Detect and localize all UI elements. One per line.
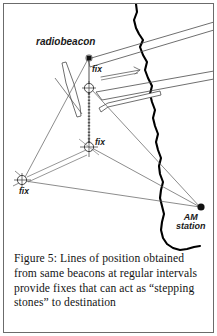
radiobeacon-marker xyxy=(86,55,93,62)
island-outline xyxy=(55,62,82,117)
arrow-marker xyxy=(101,67,140,80)
lop-beacon-to-fix-left xyxy=(24,59,88,179)
figure-caption-text: Figure 5: Lines of position obtained fro… xyxy=(14,252,197,309)
am-station-marker xyxy=(197,203,204,210)
track-left-to-middle xyxy=(27,150,87,182)
label-am-station-line2: station xyxy=(176,222,206,231)
figure-caption: Figure 5: Lines of position obtained fro… xyxy=(14,252,198,311)
label-fix-left: fix xyxy=(19,187,29,196)
pier-upper xyxy=(88,22,214,67)
figure-page: radiobeacon fix fix fix AM station Figur… xyxy=(0,0,217,336)
lines-of-position xyxy=(24,59,200,207)
label-am-station: AM station xyxy=(176,213,206,232)
lop-am-to-fix-left xyxy=(25,181,200,207)
lop-am-to-fix-mid xyxy=(92,148,200,207)
label-radiobeacon: radiobeacon xyxy=(36,37,95,48)
label-fix-middle: fix xyxy=(95,138,105,147)
label-fix-top: fix xyxy=(92,65,102,74)
lop-am-to-fix-top xyxy=(92,90,200,207)
fix-symbol-top xyxy=(82,81,96,95)
